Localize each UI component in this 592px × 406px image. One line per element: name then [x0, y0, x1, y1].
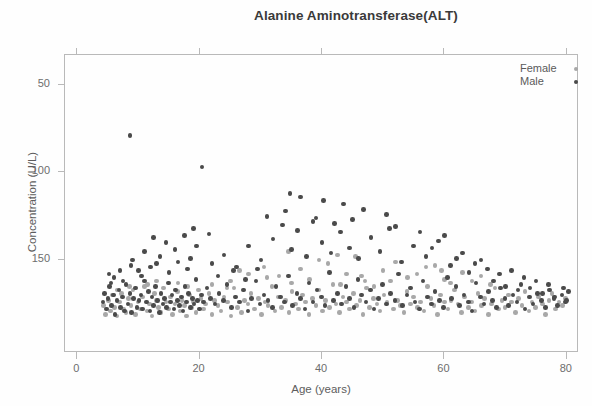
scatter-point — [151, 303, 156, 308]
scatter-point — [232, 286, 237, 291]
scatter-point — [246, 244, 251, 249]
scatter-point — [162, 296, 167, 301]
scatter-point — [225, 300, 230, 305]
scatter-point — [491, 279, 496, 284]
scatter-point — [295, 291, 300, 296]
scatter-point — [289, 281, 294, 286]
scatter-point — [277, 274, 282, 279]
scatter-point — [262, 265, 267, 270]
x-axis-tick — [566, 352, 567, 359]
scatter-point — [418, 230, 423, 235]
scatter-point — [540, 291, 545, 296]
scatter-point — [424, 254, 429, 259]
scatter-point — [266, 298, 271, 303]
scatter-point — [199, 293, 204, 298]
scatter-point — [344, 272, 349, 277]
scatter-point — [109, 281, 114, 286]
scatter-point — [555, 303, 560, 308]
scatter-point — [415, 272, 420, 277]
scatter-point — [356, 277, 361, 282]
scatter-point — [459, 310, 464, 315]
legend-item-male[interactable]: Male — [505, 75, 585, 88]
scatter-point — [246, 302, 251, 307]
scatter-point — [304, 254, 309, 259]
scatter-point — [361, 207, 366, 212]
scatter-point — [219, 309, 224, 314]
scatter-point — [430, 246, 435, 251]
scatter-point — [327, 305, 332, 310]
scatter-point — [479, 274, 484, 279]
scatter-point — [482, 296, 487, 301]
scatter-point — [287, 310, 292, 315]
scatter-point — [435, 312, 440, 317]
scatter-point — [323, 298, 328, 303]
scatter-point — [467, 270, 472, 275]
scatter-point — [539, 298, 544, 303]
scatter-point — [368, 288, 373, 293]
scatter-point — [429, 302, 434, 307]
scatter-point — [552, 295, 557, 300]
y-axis-tick-label: 150 — [8, 252, 50, 264]
scatter-point — [485, 267, 490, 272]
scatter-point — [246, 272, 251, 277]
scatter-point — [296, 307, 301, 312]
scatter-point — [422, 309, 427, 314]
scatter-point — [208, 296, 213, 301]
scatter-point — [506, 303, 511, 308]
scatter-point — [246, 309, 251, 314]
scatter-point — [490, 298, 495, 303]
scatter-point — [102, 291, 107, 296]
scatter-point — [347, 246, 352, 251]
scatter-point — [167, 270, 172, 275]
scatter-point — [498, 286, 503, 291]
scatter-point — [186, 291, 191, 296]
scatter-point — [222, 253, 227, 258]
scatter-point — [405, 293, 410, 298]
scatter-point — [503, 296, 508, 301]
scatter-point — [170, 312, 175, 317]
legend-marker-icon — [574, 80, 578, 84]
scatter-point — [364, 300, 369, 305]
scatter-point — [229, 305, 234, 310]
scatter-point — [153, 284, 158, 289]
scatter-point — [347, 296, 352, 301]
scatter-point — [331, 298, 336, 303]
scatter-point — [164, 305, 169, 310]
scatter-point — [474, 281, 479, 286]
scatter-point — [154, 279, 159, 284]
scatter-point — [413, 300, 418, 305]
scatter-point — [128, 291, 133, 296]
scatter-point — [243, 277, 248, 282]
scatter-point — [265, 214, 270, 219]
scatter-point — [194, 310, 199, 315]
legend-item-female[interactable]: Female — [505, 62, 585, 75]
scatter-point — [173, 247, 178, 252]
scatter-point — [335, 291, 340, 296]
scatter-point — [103, 312, 108, 317]
scatter-point — [289, 247, 294, 252]
scatter-point — [457, 303, 462, 308]
scatter-point — [522, 275, 527, 280]
scatter-point — [445, 275, 450, 280]
scatter-point — [560, 303, 565, 308]
scatter-point — [454, 284, 459, 289]
scatter-point — [181, 309, 186, 314]
scatter-point — [166, 281, 171, 286]
scatter-point — [148, 265, 153, 270]
scatter-points-layer — [65, 55, 577, 351]
scatter-point — [115, 298, 120, 303]
scatter-point — [106, 296, 111, 301]
scatter-point — [188, 256, 193, 261]
scatter-point — [207, 232, 212, 237]
scatter-point — [515, 300, 520, 305]
scatter-point — [265, 275, 270, 280]
scatter-point — [561, 286, 566, 291]
scatter-point — [378, 309, 383, 314]
scatter-point — [547, 298, 552, 303]
scatter-point — [126, 296, 131, 301]
x-axis-tick-label: 60 — [437, 362, 449, 374]
scatter-point — [290, 303, 295, 308]
scatter-point — [182, 303, 187, 308]
scatter-point — [148, 309, 153, 314]
scatter-point — [359, 274, 364, 279]
